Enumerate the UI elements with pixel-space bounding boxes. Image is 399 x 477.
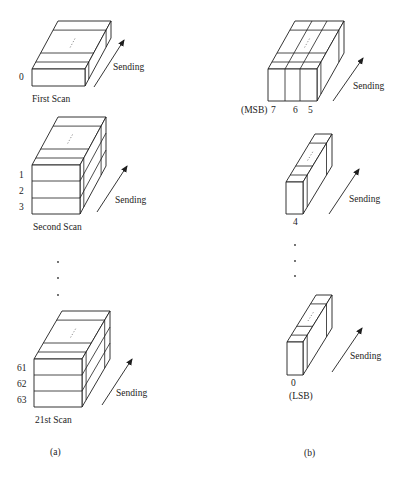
row-label: 3: [19, 202, 24, 212]
sending-label: Sending: [113, 62, 144, 72]
second-scan-block: [32, 117, 106, 214]
sending-label: Sending: [350, 351, 381, 361]
lsb-label: (LSB): [289, 391, 313, 402]
sending-label: Sending: [115, 195, 146, 205]
msb-bitplanes-block: [268, 21, 344, 101]
bitplane-4-block: [286, 134, 332, 214]
row-label: 62: [17, 379, 27, 389]
panel-a: 0 First Scan Sending 1 2 3 Second Scan S…: [17, 21, 147, 458]
bit-label: 7: [271, 105, 276, 115]
scan-caption: Second Scan: [33, 222, 82, 232]
panel-label: (a): [50, 447, 61, 458]
msb-label: (MSB): [241, 105, 267, 116]
bit-label: 0: [291, 378, 296, 388]
bit-label: 5: [308, 105, 313, 115]
sending-arrow-icon: [329, 169, 359, 214]
row-label: 63: [17, 395, 27, 405]
row-label: 1: [19, 170, 24, 180]
sending-arrow-icon: [102, 359, 132, 405]
first-scan-block: [32, 21, 111, 86]
twenty-first-scan-block: [34, 311, 110, 407]
ellipsis-dots: [57, 261, 59, 296]
sending-label: Sending: [116, 388, 147, 398]
sending-arrow-icon: [332, 328, 362, 372]
row-label: 0: [19, 72, 24, 82]
panel-b: (MSB) 7 6 5 Sending 4 Sending: [241, 21, 384, 459]
sending-label: Sending: [349, 194, 380, 204]
scan-caption: First Scan: [32, 94, 71, 104]
row-label: 2: [19, 186, 24, 196]
progressive-transmission-diagram: 0 First Scan Sending 1 2 3 Second Scan S…: [0, 0, 399, 477]
bitplane-0-block: [287, 295, 332, 375]
sending-label: Sending: [353, 81, 384, 91]
ellipsis-dots: [294, 244, 296, 277]
bit-label: 6: [293, 105, 298, 115]
bit-label: 4: [293, 217, 298, 227]
panel-label: (b): [304, 448, 315, 459]
row-label: 61: [17, 363, 27, 373]
scan-caption: 21st Scan: [35, 415, 72, 425]
